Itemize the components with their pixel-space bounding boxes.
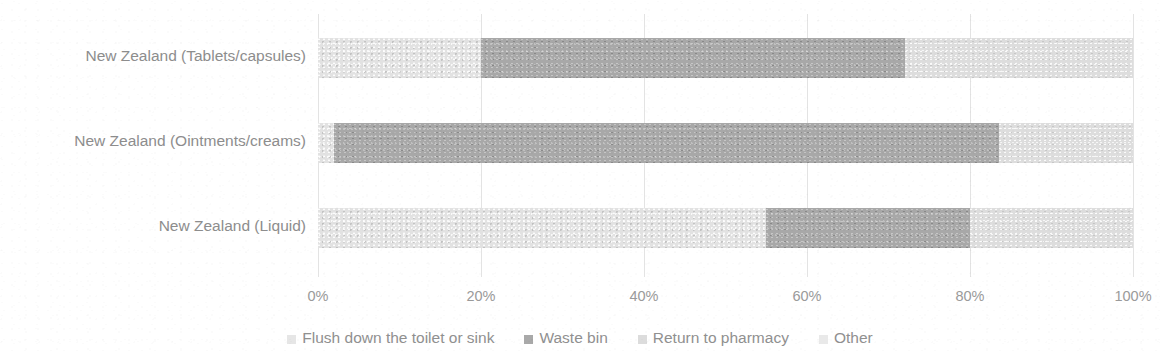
legend-label: Other xyxy=(834,329,873,347)
x-tick-label: 40% xyxy=(629,288,658,304)
category-label-liquid: New Zealand (Liquid) xyxy=(0,217,306,235)
bar-segment xyxy=(970,208,1133,248)
legend-item[interactable]: Flush down the toilet or sink xyxy=(287,329,494,347)
category-label-text: New Zealand (Liquid) xyxy=(159,217,306,234)
category-label-tablets-capsules: New Zealand (Tablets/capsules) xyxy=(0,47,306,65)
bar-segment xyxy=(334,123,998,163)
bar-row xyxy=(318,123,1133,163)
bar-segment xyxy=(905,38,1133,78)
legend-swatch-icon xyxy=(524,335,533,344)
bar-row xyxy=(318,208,1133,248)
bar-segment xyxy=(766,208,970,248)
legend-label: Flush down the toilet or sink xyxy=(302,329,494,347)
bar-segment xyxy=(318,38,481,78)
legend-item[interactable]: Return to pharmacy xyxy=(638,329,789,347)
bar-row xyxy=(318,38,1133,78)
bar-segment xyxy=(318,208,766,248)
legend-item[interactable]: Waste bin xyxy=(524,329,607,347)
plot-area xyxy=(318,14,1133,277)
stacked-bar-chart: New Zealand (Tablets/capsules) New Zeala… xyxy=(0,0,1160,351)
gridline-100 xyxy=(1133,14,1134,277)
x-tick-label: 20% xyxy=(466,288,495,304)
legend-swatch-icon xyxy=(638,335,647,344)
x-tick-label: 100% xyxy=(1114,288,1151,304)
bar-segment xyxy=(318,123,334,163)
chart-legend: Flush down the toilet or sinkWaste binRe… xyxy=(0,329,1160,347)
bar-segment xyxy=(999,123,1133,163)
bar-segment xyxy=(481,38,905,78)
category-label-text: New Zealand (Tablets/capsules) xyxy=(85,47,306,64)
legend-swatch-icon xyxy=(287,335,296,344)
legend-swatch-icon xyxy=(819,335,828,344)
legend-label: Return to pharmacy xyxy=(653,329,789,347)
category-label-text: New Zealand (Ointments/creams) xyxy=(74,132,306,149)
x-tick-label: 60% xyxy=(792,288,821,304)
category-label-ointments-creams: New Zealand (Ointments/creams) xyxy=(0,132,306,150)
x-tick-label: 80% xyxy=(955,288,984,304)
legend-item[interactable]: Other xyxy=(819,329,873,347)
x-tick-label: 0% xyxy=(308,288,329,304)
legend-label: Waste bin xyxy=(539,329,607,347)
